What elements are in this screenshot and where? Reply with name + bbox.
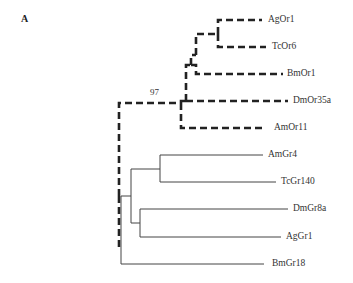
panel-label: A [21,13,28,24]
leaf-dmgr8a: DmGr8a [293,204,326,214]
leaf-agor1: AgOr1 [268,15,294,25]
leaf-tcor6: TcOr6 [272,42,296,52]
leaf-tcgr140: TcGr140 [281,177,315,187]
bootstrap-value: 97 [150,87,159,97]
leaf-bmor1: BmOr1 [287,69,316,79]
leaf-aggr1: AgGr1 [286,232,312,242]
leaf-bmgr18: BmGr18 [272,259,305,269]
or-clade-branches [119,20,288,196]
leaf-amor11: AmOr11 [274,123,307,133]
leaf-dmor35a: DmOr35a [293,96,331,106]
gr-clade-branches [121,155,288,264]
leaf-amgr4: AmGr4 [268,150,297,160]
